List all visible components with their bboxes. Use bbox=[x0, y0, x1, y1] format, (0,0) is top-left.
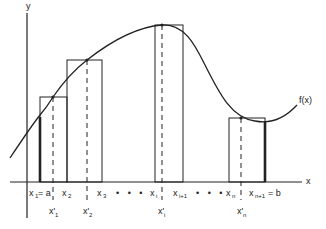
function-curve bbox=[10, 25, 297, 158]
svg-text:n: n bbox=[243, 212, 246, 218]
svg-text:1: 1 bbox=[55, 212, 59, 218]
sample-label-x2: x' 2 bbox=[83, 206, 93, 218]
rect-2 bbox=[67, 58, 102, 200]
partition-label-x3: x 3 bbox=[97, 188, 107, 199]
partition-label-x2: x 2 bbox=[62, 188, 72, 199]
svg-text:= a: = a bbox=[38, 188, 51, 198]
rect-n bbox=[229, 116, 265, 200]
svg-text:3: 3 bbox=[103, 193, 107, 199]
sample-label-xn: x' n bbox=[237, 206, 246, 218]
y-axis-label: y bbox=[26, 1, 31, 11]
svg-text:2: 2 bbox=[89, 212, 93, 218]
sample-label-x1: x' 1 bbox=[49, 206, 59, 218]
ellipsis-1: • • • bbox=[116, 188, 145, 198]
svg-text:n+1: n+1 bbox=[255, 193, 266, 199]
riemann-sum-diagram: y x f(x) x 1 = a x 2 x 3 • bbox=[0, 0, 326, 229]
svg-text:i: i bbox=[164, 212, 165, 218]
svg-text:x: x bbox=[150, 188, 155, 198]
partition-label-xi1: x i+1 bbox=[173, 188, 188, 199]
partition-label-xn: x n bbox=[226, 188, 235, 199]
svg-text:x: x bbox=[97, 188, 102, 198]
svg-text:x: x bbox=[29, 188, 34, 198]
svg-text:x: x bbox=[249, 188, 254, 198]
svg-text:= b: = b bbox=[268, 188, 281, 198]
svg-text:x: x bbox=[62, 188, 67, 198]
partition-label-xi: x i bbox=[150, 188, 157, 199]
partition-label-x1: x 1 = a bbox=[29, 188, 51, 199]
svg-text:n: n bbox=[232, 193, 235, 199]
curve-label: f(x) bbox=[299, 95, 312, 105]
svg-text:2: 2 bbox=[68, 193, 72, 199]
x-axis-label: x bbox=[306, 176, 311, 186]
svg-text:i: i bbox=[156, 193, 157, 199]
partition-label-xn1: x n+1 = b bbox=[249, 188, 281, 199]
rect-i bbox=[155, 23, 183, 200]
svg-text:x: x bbox=[173, 188, 178, 198]
ellipsis-2: • • • bbox=[196, 188, 225, 198]
svg-text:x: x bbox=[226, 188, 231, 198]
sample-label-xi: x' i bbox=[158, 206, 165, 218]
svg-text:i+1: i+1 bbox=[179, 193, 188, 199]
